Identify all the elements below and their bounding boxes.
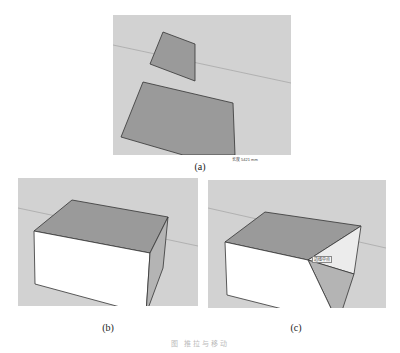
panel-c-label: (c) — [276, 322, 316, 333]
panel-a-drawing — [113, 15, 291, 155]
panel-c-drawing — [208, 180, 386, 308]
panel-a-label: (a) — [180, 161, 220, 172]
measurement-status: 长度 5421 mm — [232, 156, 258, 162]
upper-rectangle-face — [150, 32, 195, 81]
panel-a-viewport — [113, 15, 291, 155]
panel-b-viewport — [18, 178, 198, 306]
panel-b-label: (b) — [88, 322, 128, 333]
lower-rectangle-face — [121, 82, 235, 155]
panel-c-viewport — [208, 180, 386, 308]
inference-tooltip: 边线中点 — [312, 256, 332, 263]
panel-b-drawing — [18, 178, 198, 306]
figure-caption: 图 推拉与移动 — [0, 338, 400, 348]
